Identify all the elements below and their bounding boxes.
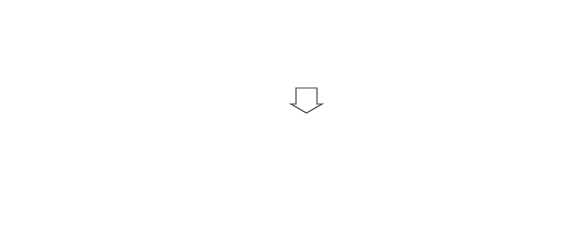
fraction-diagram: [0, 0, 581, 228]
down-arrow-icon: [291, 88, 322, 113]
